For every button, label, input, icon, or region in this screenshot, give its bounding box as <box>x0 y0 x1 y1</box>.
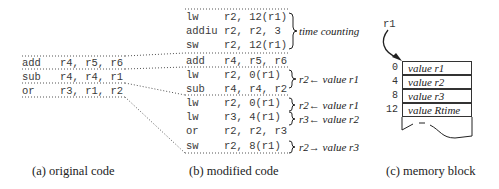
annotation-time-counting: time counting <box>299 25 359 37</box>
pointer-label: r1 <box>383 18 396 30</box>
memory-cell: value r3 <box>402 89 472 103</box>
annotation-load-r1: r2← value r1 <box>299 99 359 111</box>
offset-label: 4 <box>384 76 398 88</box>
code-line: swr2, 12(r1) <box>186 39 287 51</box>
code-line: lwr2, 12(r1) <box>186 11 287 23</box>
annotation-load-r1: r2← value r1 <box>299 73 359 85</box>
memory-cell: value r2 <box>402 75 472 89</box>
brace-icons <box>289 13 297 153</box>
caption-c: (c) memory block <box>386 164 476 179</box>
code-line: addr4, r5, r6 <box>22 57 123 69</box>
code-line: subr4, r4, r1 <box>22 71 123 83</box>
caption-b: (b) modified code <box>189 164 279 179</box>
offset-label: 0 <box>384 62 398 74</box>
code-line: orr2, r2, r3 <box>186 125 287 137</box>
caption-a: (a) original code <box>32 164 115 179</box>
memory-cell: value Rtime <box>402 103 472 117</box>
annotation-load-r2: r3← value r2 <box>299 113 359 125</box>
code-line: lwr3, 4(r1) <box>186 111 281 123</box>
code-line: orr3, r1, r2 <box>22 85 123 97</box>
code-line: lwr2, 0(r1) <box>186 69 281 81</box>
code-line: addiur2, r2, 3 <box>186 25 281 37</box>
arrow-head-icon <box>392 53 402 61</box>
code-line: swr2, 8(r1) <box>186 140 281 152</box>
code-line: subr4, r4, r2 <box>186 83 287 95</box>
offset-label: 12 <box>384 104 398 116</box>
memory-cell: value r1 <box>402 61 472 75</box>
code-line: lwr2, 0(r1) <box>186 97 281 109</box>
code-line: addr4, r5, r6 <box>186 55 287 67</box>
annotation-store-r3: r2→ value r3 <box>299 141 359 153</box>
offset-label: 8 <box>384 90 398 102</box>
